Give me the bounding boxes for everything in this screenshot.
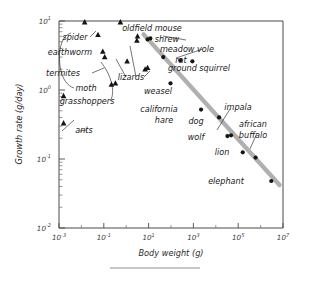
point-label-moth: moth — [75, 83, 96, 93]
y-tick-label: 101 — [39, 15, 51, 25]
point-label-termites: termites — [46, 68, 81, 78]
data-point-spider — [82, 19, 88, 24]
data-point-spider — [95, 32, 101, 37]
point-label-wolf: wolf — [188, 132, 206, 142]
y-tick-label: 10-2 — [37, 222, 51, 232]
data-point-impala — [229, 133, 233, 137]
x-axis-tick-labels: 10-310-1101103105107 — [52, 232, 290, 242]
point-label-shrew: shrew — [155, 34, 180, 44]
growth-rate-vs-body-weight-figure: 10-310-1101103105107 10110010-110-2 Body… — [0, 0, 311, 281]
point-label-ground-squirrel: ground squirrel — [168, 63, 231, 73]
x-tick-label: 107 — [277, 232, 290, 242]
y-axis-title: Growth rate (g/day) — [14, 83, 24, 164]
point-label-california: california — [140, 104, 177, 114]
point-label-spider: spider — [62, 32, 88, 42]
y-tick-label: 100 — [39, 84, 51, 94]
data-point-lion — [241, 150, 245, 154]
data-point-meadow-vole — [161, 55, 165, 59]
data-point-lizards — [135, 33, 141, 38]
x-tick-label: 10-3 — [52, 232, 66, 242]
point-label-earthworm: earthworm — [48, 47, 92, 57]
data-point-wolf — [225, 134, 229, 138]
data-point-elephant — [269, 179, 273, 183]
point-label-buffalo: buffalo — [239, 130, 267, 140]
point-label-oldfield-mouse: oldfield mouse — [122, 23, 182, 33]
point-label-elephant: elephant — [208, 176, 245, 186]
point-label-weasel: weasel — [144, 86, 173, 96]
x-tick-label: 10-1 — [97, 232, 111, 242]
x-tick-label: 103 — [187, 232, 199, 242]
x-axis-title: Body weight (g) — [138, 248, 203, 258]
y-tick-label: 10-1 — [37, 153, 51, 163]
data-point-california-hare — [199, 107, 203, 111]
data-point-earthworm — [100, 49, 106, 54]
point-label-dog: dog — [188, 116, 203, 126]
data-point-dog — [217, 115, 221, 119]
data-point-grasshoppers — [124, 58, 130, 63]
data-point-shrew — [148, 36, 152, 40]
scatter-plot-canvas: 10-310-1101103105107 10110010-110-2 Body… — [0, 0, 311, 281]
data-point-termites — [102, 54, 108, 59]
point-label-meadow-vole: meadow vole — [160, 44, 214, 54]
point-label-ants: ants — [75, 125, 93, 135]
point-label-hare: hare — [155, 115, 173, 125]
x-tick-label: 105 — [232, 232, 244, 242]
data-point-weasel — [168, 81, 172, 85]
point-label-lizards: lizards — [118, 72, 145, 82]
data-point-ants — [61, 120, 67, 125]
point-label-grasshoppers: grasshoppers — [60, 96, 116, 106]
point-label-impala: impala — [224, 102, 251, 112]
point-label-lion: lion — [215, 147, 230, 157]
data-point-african-buffalo — [254, 155, 258, 159]
point-label-african: african — [239, 119, 267, 129]
x-tick-label: 101 — [142, 232, 154, 242]
